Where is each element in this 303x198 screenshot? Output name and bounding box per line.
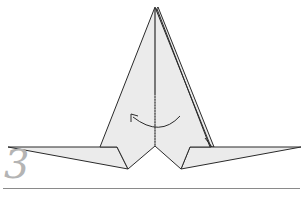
right-wing <box>181 147 301 169</box>
step-number: 3 <box>4 142 29 186</box>
divider-rule <box>3 188 300 189</box>
origami-diagram <box>0 0 303 198</box>
